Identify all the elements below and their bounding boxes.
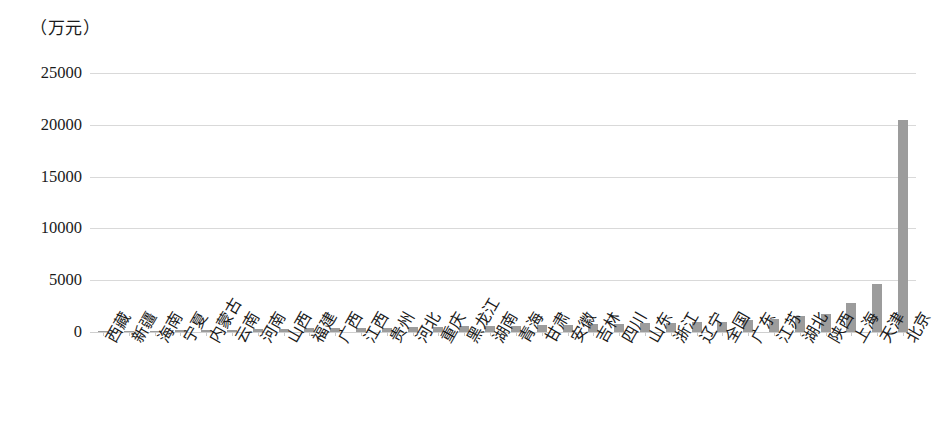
y-tick-label-10000: 10000 [10, 220, 82, 236]
y-tick-label-25000: 25000 [10, 65, 82, 81]
y-tick-label-5000: 5000 [10, 272, 82, 288]
y-axis-tick-labels: 0500010000150002000025000 [0, 73, 82, 332]
y-tick-label-0: 0 [10, 324, 82, 340]
y-tick-label-15000: 15000 [10, 169, 82, 185]
plot-area [90, 73, 916, 332]
x-axis-category-labels: 西藏新疆海南宁夏内蒙古云南河南山西福建广西江西贵州河北重庆黑龙江湖南青海甘肃安徽… [90, 337, 916, 436]
bar-chart: （万元） 0500010000150002000025000 西藏新疆海南宁夏内… [0, 0, 934, 436]
y-tick-label-20000: 20000 [10, 117, 82, 133]
bars-container [90, 73, 916, 332]
y-axis-unit-label: （万元） [30, 18, 100, 40]
bar [898, 120, 908, 332]
